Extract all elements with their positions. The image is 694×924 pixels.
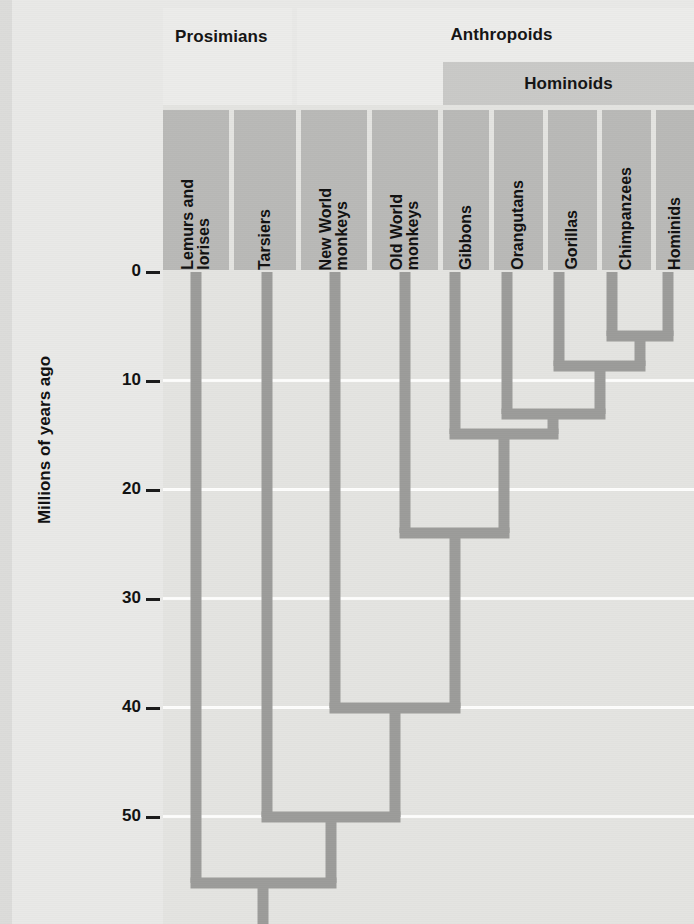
tick-mark-40 [146, 707, 160, 710]
tick-label-50: 50 [95, 806, 141, 826]
tick-label-40: 40 [95, 697, 141, 717]
tick-label-30: 30 [95, 588, 141, 608]
tick-label-0: 0 [95, 261, 141, 281]
tick-mark-50 [146, 816, 160, 819]
figure-canvas: Prosimians Anthropoids Hominoids Lemurs … [0, 0, 694, 924]
tick-label-20: 20 [95, 479, 141, 499]
tick-mark-0 [146, 271, 160, 274]
tick-mark-20 [146, 489, 160, 492]
tick-mark-30 [146, 598, 160, 601]
tick-label-10: 10 [95, 370, 141, 390]
axis-title-millions-of-years: Millions of years ago [35, 320, 55, 560]
tick-mark-10 [146, 380, 160, 383]
phylogenetic-tree [0, 0, 694, 924]
